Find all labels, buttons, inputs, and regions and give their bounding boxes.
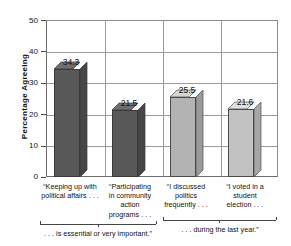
category-label-4-line1: “I voted in a: [216, 182, 274, 191]
y-tick-label-0: 0: [8, 172, 38, 181]
bar-front-face-2: [112, 110, 138, 177]
y-tick-label-20: 20: [8, 110, 38, 119]
bar-chart-figure: Percentage Agreeing 50 40 30 20 10 0: [0, 0, 291, 246]
gridline-40: [47, 52, 277, 53]
bar-side-face-4: [254, 109, 261, 177]
bar-side-face-1: [80, 69, 87, 177]
y-tick-label-50: 50: [8, 16, 38, 25]
bracket-caption-left: . . . is essential or very important.”: [34, 229, 162, 238]
category-label-4-line2: student: [216, 191, 274, 200]
bar-keeping-up-with-political-affairs[interactable]: [54, 69, 80, 177]
category-label-4: “I voted in a student election . . .: [216, 182, 274, 210]
bracket-tick-left-mid: [98, 224, 99, 227]
bracket-tick-left-end: [156, 221, 157, 224]
bar-front-face-3: [170, 97, 196, 177]
bar-front-face-1: [54, 69, 80, 177]
y-tick-label-30: 30: [8, 78, 38, 87]
bar-side-face-3: [196, 97, 203, 177]
y-tick-label-40: 40: [8, 47, 38, 56]
category-label-1: “Keeping up with political affairs . . .: [36, 182, 104, 200]
bracket-tick-right-mid: [219, 220, 220, 223]
y-tick-mark-0: [41, 177, 46, 178]
bracket-caption-right: . . . during the last year.”: [160, 225, 280, 234]
category-label-2-line1: “Participating: [104, 182, 156, 191]
category-label-1-line1: “Keeping up with: [36, 182, 104, 191]
category-label-2-line4: programs . . .: [104, 210, 156, 219]
category-label-3-line3: frequently . . .: [157, 200, 215, 209]
bar-value-label-4: 21.6: [222, 97, 268, 107]
bracket-tick-right-start: [163, 217, 164, 220]
category-label-1-line2: political affairs . . .: [36, 191, 104, 200]
category-label-2-line3: action: [104, 200, 156, 209]
bar-value-label-3: 25.5: [164, 85, 210, 95]
bar-value-label-1: 34.3: [48, 57, 94, 67]
category-label-4-line3: election . . .: [216, 200, 274, 209]
bar-value-label-2: 21.5: [106, 98, 152, 108]
category-label-3-line2: politics: [157, 191, 215, 200]
bracket-tick-left-start: [40, 221, 41, 224]
category-label-2-line2: in community: [104, 191, 156, 200]
bracket-tick-right-end: [276, 217, 277, 220]
bar-participating-in-community-action-programs[interactable]: [112, 110, 138, 177]
category-label-2: “Participating in community action progr…: [104, 182, 156, 219]
bar-i-discussed-politics-frequently[interactable]: [170, 97, 196, 177]
bar-front-face-4: [228, 109, 254, 177]
bar-i-voted-in-a-student-election[interactable]: [228, 109, 254, 177]
y-tick-label-10: 10: [8, 141, 38, 150]
gridline-vertical-2: [163, 21, 164, 176]
category-label-3: “I discussed politics frequently . . .: [157, 182, 215, 210]
bar-side-face-2: [138, 110, 145, 177]
category-label-3-line1: “I discussed: [157, 182, 215, 191]
